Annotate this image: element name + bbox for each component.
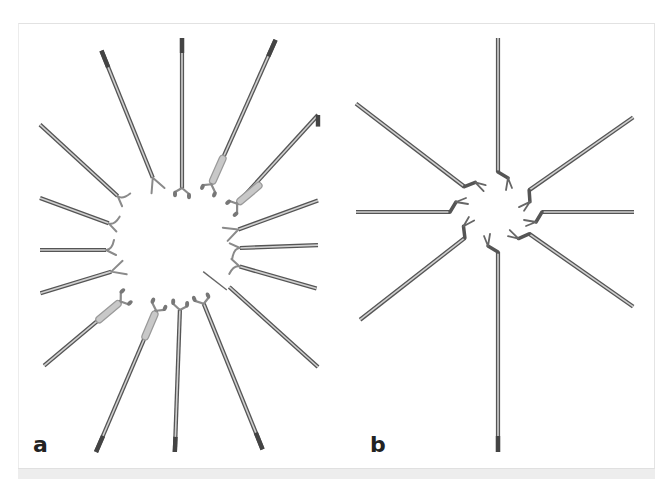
instrument xyxy=(229,259,316,289)
instrument xyxy=(498,38,512,190)
instrument xyxy=(191,292,262,449)
panel-b-instruments xyxy=(356,38,634,452)
instrument xyxy=(40,125,130,207)
instrument xyxy=(40,240,116,255)
instrument xyxy=(356,104,486,191)
instrument xyxy=(40,261,126,293)
instrument xyxy=(101,51,164,194)
panel-label-a: a xyxy=(33,434,48,456)
instrument xyxy=(230,243,318,258)
instrument xyxy=(173,38,191,199)
instrument xyxy=(224,115,318,218)
panel-label-b: b xyxy=(370,434,386,456)
panel-a-instruments xyxy=(40,38,318,452)
instrument xyxy=(360,217,474,320)
instrument xyxy=(171,298,189,452)
instrument xyxy=(519,117,633,210)
instrument xyxy=(484,234,498,452)
instrument xyxy=(44,287,133,365)
instrument xyxy=(356,198,468,212)
instrument xyxy=(40,198,120,231)
instrument xyxy=(508,230,633,307)
instrument xyxy=(96,297,168,452)
instrument-illustration xyxy=(0,0,668,479)
instrument xyxy=(524,212,634,226)
